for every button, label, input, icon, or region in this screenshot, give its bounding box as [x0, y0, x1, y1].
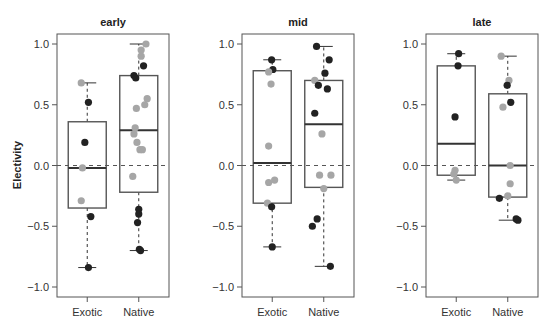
group-native: Native — [120, 40, 158, 318]
data-point-dark — [321, 70, 328, 77]
data-point-light — [453, 176, 460, 183]
data-point-light — [507, 162, 514, 169]
data-point-light — [142, 40, 149, 47]
data-point-dark — [137, 247, 144, 254]
data-point-light — [265, 179, 272, 186]
data-point-light — [504, 192, 511, 199]
data-point-light — [79, 164, 86, 171]
data-point-dark — [81, 139, 88, 146]
panel-title: late — [473, 16, 492, 28]
y-tick-label: 1.0 — [403, 38, 418, 50]
data-point-light — [133, 139, 140, 146]
y-tick-label: −0.5 — [27, 220, 49, 232]
data-point-dark — [309, 223, 316, 230]
y-tick-label: −1.0 — [396, 281, 418, 293]
data-point-light — [327, 172, 334, 179]
data-point-dark — [268, 56, 275, 63]
data-point-light — [320, 185, 327, 192]
data-point-light — [499, 104, 506, 111]
data-point-light — [267, 80, 274, 87]
group-exotic: Exotic — [68, 79, 106, 318]
data-point-dark — [134, 219, 141, 226]
data-point-dark — [87, 213, 94, 220]
data-point-dark — [326, 56, 333, 63]
data-point-dark — [311, 110, 318, 117]
panel-late: late1.00.50.0−0.5−1.0ExoticNative — [396, 16, 538, 318]
data-point-dark — [496, 195, 503, 202]
group-native: Native — [305, 43, 343, 318]
data-point-light — [133, 105, 140, 112]
data-point-dark — [504, 82, 511, 89]
data-point-light — [132, 124, 139, 131]
data-point-dark — [315, 82, 322, 89]
panel-mid: mid1.00.50.0−0.5−1.0ExoticNative — [212, 16, 354, 318]
iqr-box — [68, 122, 106, 208]
data-point-light — [507, 180, 514, 187]
panel-title: early — [100, 16, 127, 28]
data-point-dark — [85, 264, 92, 271]
panel-title: mid — [288, 16, 308, 28]
data-point-dark — [507, 99, 514, 106]
x-tick-label: Exotic — [72, 306, 102, 318]
data-point-light — [130, 130, 137, 137]
data-point-dark — [455, 50, 462, 57]
group-exotic: Exotic — [253, 56, 291, 318]
data-point-light — [316, 172, 323, 179]
data-point-dark — [454, 62, 461, 69]
electivity-boxplot-chart: Electivity early1.00.50.0−0.5−1.0ExoticN… — [0, 0, 550, 328]
data-point-dark — [327, 263, 334, 270]
data-point-light — [318, 130, 325, 137]
y-tick-label: 0.0 — [34, 160, 49, 172]
data-point-dark — [132, 74, 139, 81]
data-point-dark — [451, 113, 458, 120]
data-point-light — [265, 68, 272, 75]
data-point-dark — [85, 99, 92, 106]
y-tick-label: 0.5 — [34, 99, 49, 111]
data-point-dark — [135, 211, 142, 218]
data-point-light — [129, 173, 136, 180]
data-point-light — [138, 53, 145, 60]
x-tick-label: Native — [308, 306, 339, 318]
data-point-dark — [314, 215, 321, 222]
y-tick-label: 0.0 — [219, 160, 234, 172]
x-tick-label: Exotic — [441, 306, 471, 318]
y-tick-label: 1.0 — [34, 38, 49, 50]
y-tick-label: −0.5 — [212, 220, 234, 232]
panels: early1.00.50.0−0.5−1.0ExoticNativemid1.0… — [27, 16, 538, 318]
group-native: Native — [489, 53, 527, 318]
x-tick-label: Native — [492, 306, 523, 318]
y-tick-label: −1.0 — [212, 281, 234, 293]
data-point-light — [265, 142, 272, 149]
iqr-box — [253, 71, 291, 203]
y-tick-label: −0.5 — [396, 220, 418, 232]
data-point-dark — [268, 203, 275, 210]
y-axis-label: Electivity — [11, 140, 23, 189]
x-tick-label: Exotic — [257, 306, 287, 318]
data-point-dark — [269, 243, 276, 250]
x-tick-label: Native — [123, 306, 154, 318]
data-point-light — [139, 146, 146, 153]
data-point-light — [78, 197, 85, 204]
data-point-dark — [514, 217, 521, 224]
data-point-dark — [313, 43, 320, 50]
data-point-light — [141, 101, 148, 108]
y-tick-label: 0.0 — [403, 160, 418, 172]
y-tick-label: 0.5 — [403, 99, 418, 111]
iqr-box — [437, 66, 475, 175]
data-point-light — [498, 53, 505, 60]
iqr-box — [120, 76, 158, 193]
y-tick-label: −1.0 — [27, 281, 49, 293]
y-tick-label: 1.0 — [219, 38, 234, 50]
group-exotic: Exotic — [437, 50, 475, 318]
y-tick-label: 0.5 — [219, 99, 234, 111]
data-point-dark — [324, 85, 331, 92]
panel-early: early1.00.50.0−0.5−1.0ExoticNative — [27, 16, 169, 318]
data-point-light — [78, 79, 85, 86]
data-point-dark — [140, 62, 147, 69]
